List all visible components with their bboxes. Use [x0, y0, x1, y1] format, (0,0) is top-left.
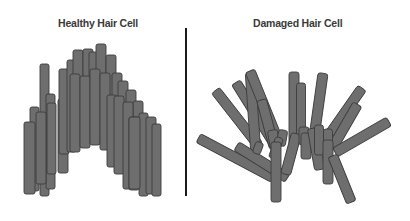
- damaged-stereocilia-bar: [315, 125, 324, 155]
- damaged-stereocilia-bar: [310, 73, 328, 132]
- damaged-hair-cell-illustration: [0, 0, 410, 221]
- damaged-stereocilia-bar: [271, 142, 281, 202]
